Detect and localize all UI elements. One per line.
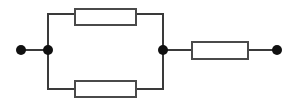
circuit-schematic-svg: [0, 0, 297, 107]
circuit-diagram: [0, 0, 297, 107]
resistor-bottom: [75, 81, 136, 97]
node-left-junction: [43, 45, 53, 55]
junction-node-group: [43, 45, 168, 55]
node-right-junction: [158, 45, 168, 55]
resistor-top: [75, 9, 136, 25]
resistor-series: [192, 42, 248, 59]
terminal-left: [16, 45, 26, 55]
terminal-right: [272, 45, 282, 55]
